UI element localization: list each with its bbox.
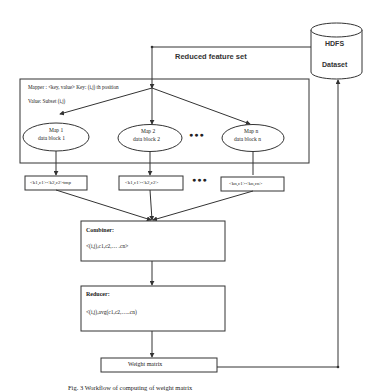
map-n-subtitle: data block n bbox=[234, 136, 261, 142]
map-n-output-label: <kn,c1><kn,cn> bbox=[229, 181, 262, 186]
hdfs-dataset-cylinder-icon bbox=[311, 23, 362, 79]
map-2-subtitle: data block 2 bbox=[133, 136, 160, 142]
reducer-title: Reducer: bbox=[86, 291, 110, 297]
dataset-label: Dataset bbox=[322, 61, 347, 68]
workflow-diagram: HDFS Dataset Reduced feature set Mapper … bbox=[0, 0, 378, 392]
map-1-output-label: <k1,c1><k2,c2>tmp bbox=[30, 180, 71, 185]
mapper-value-description: Value: Subset (i,j) bbox=[28, 98, 65, 104]
map-ellipsis-dots: ●●● bbox=[189, 131, 205, 138]
mapper-description: Mapper : <key, value> Key: (i,j) th posi… bbox=[28, 84, 119, 90]
reduced-feature-set-label: Reduced feature set bbox=[175, 52, 247, 61]
weight-to-hdfs-edge bbox=[217, 80, 339, 368]
map-1-subtitle: data block 1 bbox=[38, 135, 65, 141]
combiner-title: Combiner: bbox=[86, 227, 114, 233]
weight-matrix-label: Weight matrix bbox=[128, 361, 162, 367]
map-2-output-label: <k1,c1><k2,c2> bbox=[125, 180, 158, 185]
combine-edges bbox=[56, 190, 253, 220]
output-ellipsis-dots: ●●● bbox=[192, 176, 208, 183]
map-n-title: Map n bbox=[244, 128, 258, 134]
hdfs-label: HDFS bbox=[325, 40, 344, 47]
figure-caption: Fig. 3 Workflow of computing of weight m… bbox=[68, 384, 192, 391]
reducer-body: <(i,j),avg(c1,c2,…..cn) bbox=[86, 309, 137, 315]
combiner-body: <(i,j),c1,c2,… .cn> bbox=[86, 243, 128, 249]
map-2-title: Map 2 bbox=[141, 128, 155, 134]
fork-edges bbox=[60, 88, 250, 124]
map-1-title: Map 1 bbox=[49, 127, 63, 133]
